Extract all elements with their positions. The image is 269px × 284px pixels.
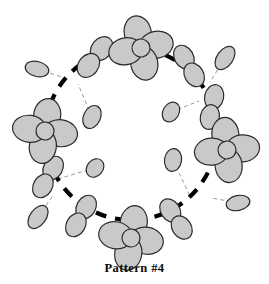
pattern-figure: Pattern #4 — [0, 0, 269, 284]
pattern-diagram — [0, 0, 269, 284]
